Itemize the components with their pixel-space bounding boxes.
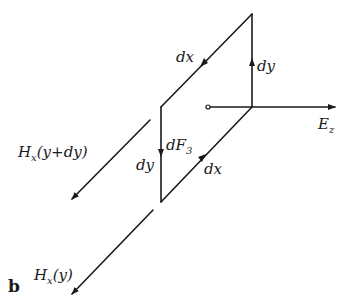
label-dx-top: dx <box>176 50 194 65</box>
panel-label: b <box>8 276 20 296</box>
ez-origin-circle <box>206 105 210 109</box>
label-hx-lower: Hx(y) <box>34 268 73 286</box>
label-dy-right: dy <box>257 59 275 74</box>
label-dy-left: dy <box>136 158 154 173</box>
loop-arrowhead-dy-left <box>158 149 164 157</box>
label-ez: Ez <box>318 117 334 135</box>
label-dx-bottom: dx <box>204 162 222 177</box>
label-df3: dF3 <box>166 138 192 156</box>
loop-edge-top-diagonal <box>161 14 252 107</box>
loop-arrowhead-dy-right <box>249 58 255 66</box>
hx-lower-arrow <box>72 210 153 294</box>
label-hx-upper: Hx(y+dy) <box>18 145 88 163</box>
